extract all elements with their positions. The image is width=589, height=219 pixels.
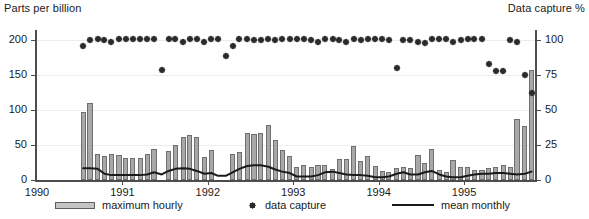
right-axis-spine	[535, 30, 537, 180]
x-axis-tick	[464, 180, 465, 185]
right-axis-tick-label: 0	[545, 174, 551, 185]
plot-area	[37, 30, 535, 180]
left-axis-tick-label: 0	[0, 174, 27, 185]
data-point	[158, 66, 165, 73]
right-axis-tick	[537, 180, 541, 181]
line-swatch-icon	[392, 204, 434, 206]
left-axis-tick	[31, 145, 35, 146]
bottom-axis-spine	[35, 180, 537, 182]
left-axis-tick	[31, 75, 35, 76]
legend-item-data-capture: data capture	[247, 196, 326, 214]
legend-label-maximum-hourly: maximum hourly	[102, 199, 183, 211]
left-axis-tick	[31, 40, 35, 41]
legend-item-maximum-hourly: maximum hourly	[55, 196, 183, 214]
right-axis-tick	[537, 145, 541, 146]
right-axis-tick-label: 100	[545, 34, 563, 45]
left-axis-tick	[31, 180, 35, 181]
legend-label-data-capture: data capture	[265, 199, 326, 211]
left-axis-title: Parts per billion	[4, 2, 82, 14]
right-axis-tick-label: 25	[545, 139, 557, 150]
right-axis-tick	[537, 110, 541, 111]
data-point	[449, 38, 456, 45]
left-axis-spine	[35, 30, 37, 180]
right-axis-title: Data capture %	[508, 2, 585, 14]
x-axis-tick	[293, 180, 294, 185]
data-point	[222, 52, 229, 59]
left-axis-tick-label: 100	[0, 104, 27, 115]
chart-figure: Parts per billion Data capture % 0501001…	[0, 0, 589, 219]
x-axis-tick	[208, 180, 209, 185]
right-axis-tick-label: 75	[545, 69, 557, 80]
bar-swatch-icon	[55, 202, 95, 209]
right-axis-tick-label: 50	[545, 104, 557, 115]
right-axis-tick	[537, 75, 541, 76]
left-axis-tick-label: 200	[0, 34, 27, 45]
right-axis-tick	[537, 40, 541, 41]
x-axis-tick	[379, 180, 380, 185]
line-series-mean-monthly	[37, 30, 535, 180]
left-axis-tick-label: 150	[0, 69, 27, 80]
left-axis-tick-label: 50	[0, 139, 27, 150]
left-axis-tick	[31, 110, 35, 111]
diamond-marker-icon	[249, 201, 256, 208]
data-point	[414, 38, 421, 45]
chart-legend: maximum hourly data capture mean monthly	[37, 196, 535, 214]
legend-label-mean-monthly: mean monthly	[441, 199, 510, 211]
x-axis-tick	[122, 180, 123, 185]
legend-item-mean-monthly: mean monthly	[392, 196, 510, 214]
